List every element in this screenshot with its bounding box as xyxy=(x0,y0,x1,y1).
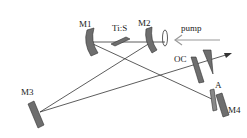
aperture-a xyxy=(210,89,217,111)
compensating-wedge xyxy=(203,50,213,74)
label-m4: M4 xyxy=(228,105,241,115)
mirror-m2 xyxy=(146,27,157,53)
label-m1: M1 xyxy=(79,19,92,29)
label-aperture: A xyxy=(215,80,222,90)
label-crystal: Ti:S xyxy=(112,23,127,33)
label-m2: M2 xyxy=(138,18,151,28)
mirror-m3 xyxy=(28,101,44,128)
label-pump: pump xyxy=(181,23,202,33)
label-oc: OC xyxy=(174,54,187,64)
output-coupler-wedge xyxy=(191,57,204,83)
laser-cavity-diagram: M1 Ti:S M2 pump OC A M4 M3 xyxy=(0,0,247,138)
output-arrowhead-icon xyxy=(224,53,232,58)
pump-lens xyxy=(163,30,168,46)
beam-m3-output xyxy=(40,54,229,112)
ti-sapphire-crystal xyxy=(111,37,130,46)
label-m3: M3 xyxy=(21,87,34,97)
